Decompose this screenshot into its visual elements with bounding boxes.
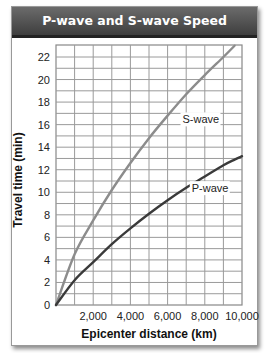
x-axis-label: Epicenter distance (km) bbox=[81, 327, 216, 341]
x-tick-label: 6,000 bbox=[154, 310, 182, 322]
s-wave-label: S-wave bbox=[182, 113, 219, 125]
y-tick-label: 12 bbox=[38, 164, 50, 176]
y-tick-label: 4 bbox=[44, 254, 50, 266]
x-tick-label: 10,000 bbox=[225, 310, 259, 322]
y-tick-label: 10 bbox=[38, 186, 50, 198]
chart-plot: 02468101214161820222,0004,0006,0008,0001… bbox=[0, 0, 267, 353]
y-tick-label: 18 bbox=[38, 96, 50, 108]
y-axis-label: Travel time (min) bbox=[11, 132, 25, 227]
x-tick-label: 8,000 bbox=[191, 310, 219, 322]
y-tick-label: 6 bbox=[44, 231, 50, 243]
x-tick-label: 2,000 bbox=[79, 310, 107, 322]
p-wave-label: P-wave bbox=[192, 182, 229, 194]
y-tick-label: 2 bbox=[44, 276, 50, 288]
y-tick-label: 20 bbox=[38, 74, 50, 86]
y-tick-label: 0 bbox=[44, 299, 50, 311]
x-tick-label: 4,000 bbox=[117, 310, 145, 322]
y-tick-label: 8 bbox=[44, 209, 50, 221]
y-tick-label: 14 bbox=[38, 141, 50, 153]
y-tick-label: 16 bbox=[38, 119, 50, 131]
y-tick-label: 22 bbox=[38, 51, 50, 63]
